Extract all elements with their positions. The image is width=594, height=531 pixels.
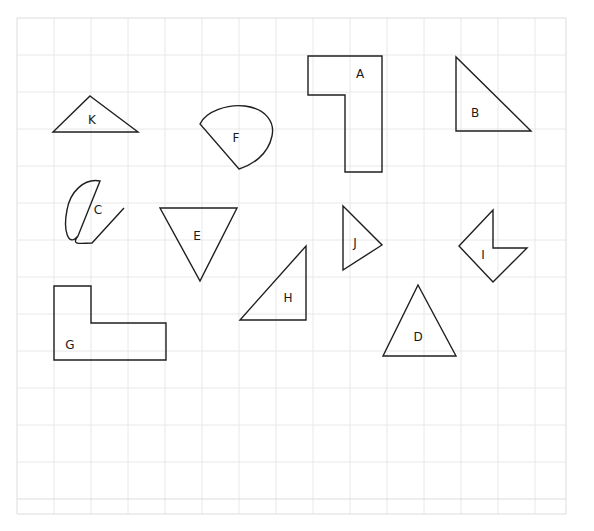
shape-outline-j[interactable]	[343, 206, 382, 270]
shape-f[interactable]: F	[200, 106, 273, 169]
shape-label-f: F	[233, 131, 240, 145]
grid-background	[17, 18, 566, 514]
shape-k[interactable]: K	[53, 96, 138, 132]
shape-h[interactable]: H	[240, 246, 306, 320]
shape-label-h: H	[283, 291, 292, 305]
shape-e[interactable]: E	[160, 208, 237, 281]
shape-canvas: ABCDEFGHIJK	[0, 0, 594, 531]
shape-b[interactable]: B	[456, 57, 531, 131]
shape-label-e: E	[193, 229, 201, 243]
shape-outline-a[interactable]	[308, 56, 382, 172]
shape-label-a: A	[356, 67, 365, 81]
shape-outline-e[interactable]	[160, 208, 237, 281]
shape-label-g: G	[65, 338, 74, 352]
shape-c[interactable]: C	[66, 181, 124, 244]
shape-label-j: J	[352, 236, 357, 250]
shape-a[interactable]: A	[308, 56, 382, 172]
shape-worksheet: ABCDEFGHIJK	[0, 0, 594, 531]
shape-label-b: B	[471, 106, 479, 120]
shape-label-c: C	[94, 203, 102, 217]
shape-outline-h[interactable]	[240, 246, 306, 320]
shape-i[interactable]: I	[459, 210, 527, 282]
shape-label-d: D	[413, 330, 422, 344]
shape-outline-i[interactable]	[459, 210, 527, 282]
shape-d[interactable]: D	[383, 285, 456, 356]
shape-g[interactable]: G	[54, 286, 166, 360]
shape-label-i: I	[481, 248, 485, 262]
shape-outline-b[interactable]	[456, 57, 531, 131]
shape-j[interactable]: J	[343, 206, 382, 270]
shape-label-k: K	[88, 113, 97, 127]
shape-outline-d[interactable]	[383, 285, 456, 356]
